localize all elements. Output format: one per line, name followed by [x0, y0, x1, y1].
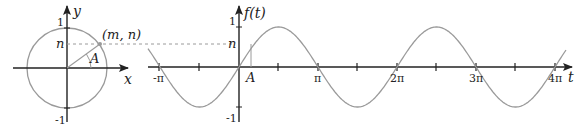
f-axis-label: f(t): [243, 5, 266, 21]
t-axis-label: t: [568, 69, 574, 85]
point-label: (m, n): [102, 27, 141, 42]
circle-tick-1-label: 1: [57, 16, 64, 29]
unit-circle-panel: y x 1 -1 n (m, n) A: [13, 3, 141, 127]
circle-x-label: x: [124, 71, 132, 87]
circle-angle-label: A: [89, 51, 99, 66]
circle-n-label: n: [56, 36, 64, 51]
tick-label-2pi: 2π: [390, 72, 404, 85]
f-angle-label: A: [245, 70, 255, 85]
f-n-label: n: [228, 36, 236, 51]
tick-label-pi: π: [314, 72, 321, 85]
circle-y-label: y: [72, 3, 82, 19]
diagram-canvas: y x 1 -1 n (m, n) A: [0, 0, 582, 131]
f-tick-1-label: 1: [229, 15, 236, 28]
wave-graph-panel: f(t) t 1 -1 n A -π π 2π 3π 4π: [148, 5, 574, 125]
circle-tick-neg1-label: -1: [55, 114, 66, 127]
tick-label-neg-pi: -π: [153, 72, 164, 85]
tick-label-4pi: 4π: [548, 72, 562, 85]
tick-label-3pi: 3π: [469, 72, 483, 85]
f-tick-neg1-label: -1: [226, 112, 237, 125]
